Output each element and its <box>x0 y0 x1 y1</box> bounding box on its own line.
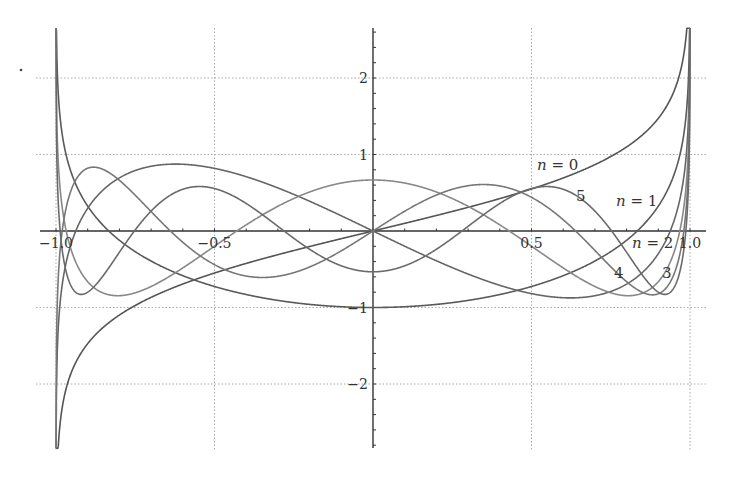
x-tick-label: −1.0 <box>39 235 73 251</box>
x-tick-label: −0.5 <box>198 235 232 251</box>
curve-label: n = 2 <box>632 234 673 252</box>
axes <box>40 28 706 448</box>
curve-label: 4 <box>614 264 624 282</box>
y-tick-label: 1 <box>359 147 368 163</box>
y-tick-label: 2 <box>359 70 368 86</box>
curve-labels: n = 05n = 1n = 243 <box>537 156 673 282</box>
curve-label: n = 1 <box>616 192 657 210</box>
grid-lines <box>36 28 706 450</box>
curve-label: 5 <box>576 187 586 205</box>
stray-dot <box>20 69 23 72</box>
y-tick-label: −2 <box>347 376 368 392</box>
legendre-q-chart: −1.0−0.50.51.021−1−2 n = 05n = 1n = 243 <box>0 0 742 483</box>
x-tick-label: 0.5 <box>520 235 542 251</box>
curve-label: n = 0 <box>537 156 578 174</box>
curve-label: 3 <box>662 264 672 282</box>
y-tick-label: −1 <box>347 300 368 316</box>
x-tick-label: 1.0 <box>679 235 701 251</box>
